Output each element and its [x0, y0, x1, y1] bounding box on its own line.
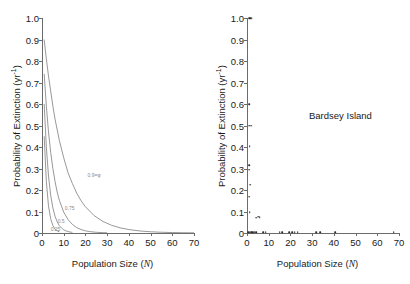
y-tick-label: 0.3: [26, 163, 39, 174]
y-tick-label: 0.2: [231, 185, 244, 196]
curve-label-0.9: 0.9=φ: [88, 172, 101, 178]
y-tick-label: 0.8: [26, 56, 39, 67]
x-axis-label-right-post: ): [355, 258, 358, 269]
scatter-point: [279, 231, 281, 233]
y-axis-label-left-text: Probability of Extinction (yr: [11, 75, 22, 187]
scatter-point: [262, 231, 264, 233]
y-axis-label-right: Probability of Extinction (yr-1): [215, 41, 227, 211]
scatter-point: [265, 231, 267, 233]
scatter-point: [249, 145, 251, 147]
x-axis-label-right: Population Size (N): [225, 258, 410, 269]
y-tick-label: 0.8: [231, 56, 244, 67]
x-tick-mark: [334, 233, 335, 236]
scatter-point: [281, 231, 283, 233]
x-tick-label: 40: [124, 237, 135, 248]
x-tick-label: 60: [167, 237, 178, 248]
scatter-point: [291, 231, 293, 233]
scatter-point: [248, 196, 250, 198]
y-tick-label: 0.6: [26, 99, 39, 110]
y-tick-label: 0.4: [231, 142, 244, 153]
x-axis-label-right-pre: Population Size (: [277, 258, 349, 269]
y-tick-label: 0.5: [231, 120, 244, 131]
scatter-point: [334, 231, 336, 233]
scatter-point: [259, 216, 261, 218]
x-tick-mark: [42, 233, 43, 236]
y-tick-mark: [244, 18, 247, 19]
y-tick-label: 1.0: [231, 13, 244, 24]
x-axis-line-right: [247, 233, 399, 234]
y-axis-label-right-text: Probability of Extinction (yr: [216, 75, 227, 187]
scatter-point: [297, 231, 299, 233]
scatter-point: [249, 169, 251, 171]
x-tick-label: 30: [307, 237, 318, 248]
x-tick-label: 20: [285, 237, 296, 248]
x-tick-label: 70: [189, 237, 200, 248]
y-tick-label: 0.6: [231, 99, 244, 110]
decay-curve-0.9: [44, 40, 194, 233]
curve-label-0.5: 0.5: [58, 218, 65, 224]
panel-title-bardsey-island: Bardsey Island: [309, 110, 372, 121]
y-tick-label: 0.4: [26, 142, 39, 153]
x-tick-mark: [129, 233, 130, 236]
x-tick-label: 60: [372, 237, 383, 248]
scatter-point: [255, 231, 257, 233]
y-tick-label: 0.1: [231, 206, 244, 217]
x-tick-label: 50: [350, 237, 361, 248]
x-tick-label: 20: [80, 237, 91, 248]
panel-left: Probability of Extinction (yr-1) 1.00.90…: [0, 0, 205, 284]
scatter-point: [248, 103, 250, 105]
x-tick-mark: [194, 233, 195, 236]
scatter-point: [316, 231, 318, 233]
x-tick-label: 40: [329, 237, 340, 248]
x-tick-mark: [172, 233, 173, 236]
scatter-point: [251, 17, 253, 19]
y-tick-label: 0.2: [26, 185, 39, 196]
y-axis-label-right-close: ): [216, 65, 227, 68]
x-tick-mark: [312, 233, 313, 236]
x-tick-mark: [377, 233, 378, 236]
curve-label-0.75: 0.75: [65, 205, 75, 211]
scatter-point: [294, 231, 296, 233]
y-axis-label-left-close: ): [11, 65, 22, 68]
y-tick-mark: [244, 190, 247, 191]
x-tick-mark: [290, 233, 291, 236]
y-tick-mark: [244, 126, 247, 127]
scatter-point: [250, 184, 252, 186]
y-tick-label: 0.9: [26, 34, 39, 45]
x-tick-mark: [356, 233, 357, 236]
y-tick-label: 0.9: [231, 34, 244, 45]
y-tick-label: 0.7: [26, 77, 39, 88]
y-tick-mark: [244, 104, 247, 105]
x-tick-label: 30: [102, 237, 113, 248]
x-tick-mark: [151, 233, 152, 236]
scatter-point: [249, 211, 251, 213]
x-tick-mark: [247, 233, 248, 236]
x-tick-label: 0: [39, 237, 44, 248]
x-axis-label-left-pre: Population Size (: [72, 258, 144, 269]
x-tick-label: 0: [244, 237, 249, 248]
y-tick-mark: [244, 40, 247, 41]
x-axis-label-left-post: ): [150, 258, 153, 269]
y-tick-label: 0.5: [26, 120, 39, 131]
decay-curves: [42, 18, 194, 233]
scatter-point: [289, 231, 291, 233]
x-tick-mark: [269, 233, 270, 236]
y-axis-label-right-superscript: -1: [215, 68, 222, 74]
decay-curve-0.75: [44, 74, 107, 233]
y-axis-label-left-superscript: -1: [10, 68, 17, 74]
scatter-point: [250, 125, 252, 127]
x-tick-mark: [399, 233, 400, 236]
x-axis-line-left: [42, 233, 194, 234]
plot-area-right: 1.00.90.80.70.60.50.40.30.20.10 01020304…: [247, 18, 399, 233]
x-tick-label: 10: [58, 237, 69, 248]
scatter-point: [319, 231, 321, 233]
y-tick-label: 0.7: [231, 77, 244, 88]
scatter-point: [393, 231, 395, 233]
y-tick-label: 1.0: [26, 13, 39, 24]
curve-label-0.25: 0.25: [51, 226, 61, 232]
x-tick-label: 70: [394, 237, 405, 248]
y-tick-mark: [244, 169, 247, 170]
y-tick-mark: [244, 83, 247, 84]
y-tick-label: 0.3: [231, 163, 244, 174]
y-tick-mark: [244, 212, 247, 213]
